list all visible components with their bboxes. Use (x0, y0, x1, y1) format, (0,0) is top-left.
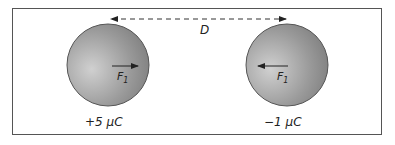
distance-arrow (110, 16, 286, 22)
left-sphere (67, 24, 149, 106)
left-charge-label: +5 μC (85, 115, 123, 129)
distance-label: D (200, 23, 209, 37)
right-charge-label: −1 μC (264, 115, 302, 129)
right-sphere (246, 24, 328, 106)
coulomb-diagram: D F1 +5 μC F1 −1 μC (0, 0, 395, 145)
